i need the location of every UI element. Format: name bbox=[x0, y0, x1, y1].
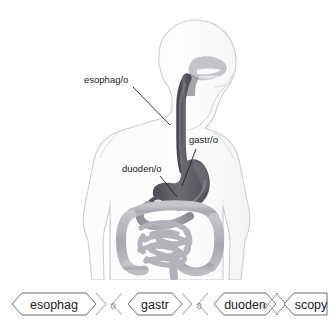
word-segment-gastr[interactable]: gastr bbox=[128, 293, 182, 315]
word-segment-esophag-label: esophag bbox=[30, 298, 78, 312]
label-stomach: gastr/o bbox=[189, 134, 218, 145]
torso-illustration: esophag/o gastr/o duoden/o bbox=[0, 0, 333, 280]
word-segment-esophag[interactable]: esophag bbox=[12, 293, 96, 315]
label-duodenum: duoden/o bbox=[122, 163, 162, 174]
joiner-o-3: o bbox=[262, 300, 268, 311]
leader-line-esophagus bbox=[133, 87, 170, 125]
word-building-strip: esophag o gastr o duoden o bbox=[0, 288, 333, 320]
chevron-echo-3 bbox=[182, 293, 192, 315]
chevron-echo-1 bbox=[96, 293, 106, 315]
word-segment-duoden-label: duoden bbox=[224, 298, 266, 312]
word-segment-scopy-label: scopy bbox=[295, 298, 328, 312]
word-segment-gastr-label: gastr bbox=[141, 298, 169, 312]
word-segment-scopy[interactable]: scopy bbox=[284, 293, 328, 315]
label-esophagus: esophag/o bbox=[84, 74, 128, 85]
word-strip-svg: esophag o gastr o duoden o bbox=[0, 288, 333, 320]
anatomy-diagram: esophag/o gastr/o duoden/o esophag o bbox=[0, 0, 333, 326]
